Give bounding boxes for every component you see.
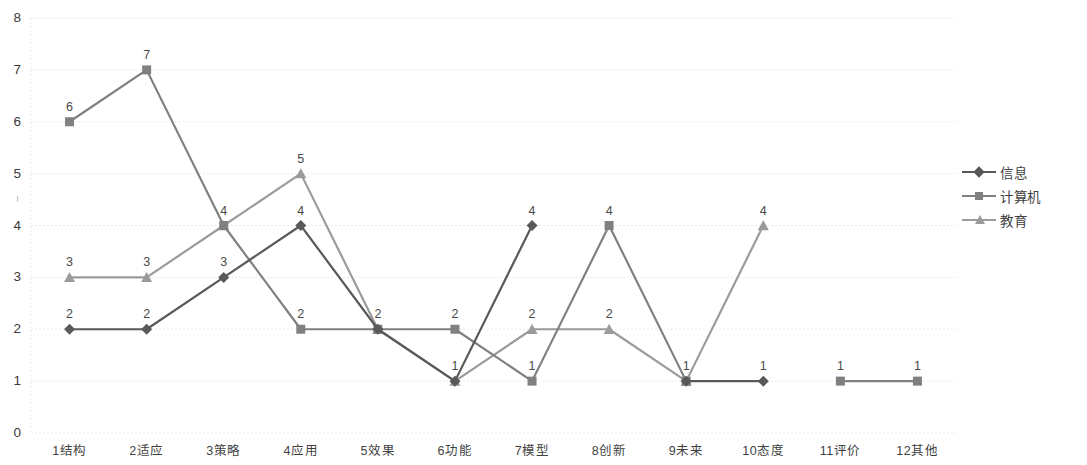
legend-key-diamond-icon bbox=[962, 165, 996, 179]
legend: 信息计算机教育 bbox=[962, 160, 1087, 232]
diamond-marker bbox=[64, 324, 75, 335]
data-label: 3 bbox=[66, 255, 73, 269]
square-marker bbox=[450, 325, 459, 334]
square-marker bbox=[142, 65, 151, 74]
data-label: 2 bbox=[66, 307, 73, 321]
plot-area: 223441672221411334512214 bbox=[31, 18, 956, 433]
x-tick-label-3: 3策略 bbox=[206, 440, 241, 459]
x-tick-label-6: 6功能 bbox=[438, 440, 473, 459]
data-label: 2 bbox=[529, 307, 536, 321]
y-tick-label: 5 bbox=[13, 167, 21, 181]
x-tick-label-8: 8创新 bbox=[592, 440, 627, 459]
x-tick-label-12: 12其他 bbox=[896, 440, 938, 459]
data-label: 1 bbox=[683, 359, 690, 373]
data-label: 5 bbox=[297, 152, 304, 166]
data-label: 4 bbox=[606, 204, 613, 218]
data-label: 3 bbox=[220, 255, 227, 269]
x-tick-label-2: 2适应 bbox=[129, 440, 164, 459]
square-marker bbox=[605, 221, 614, 230]
legend-label: 计算机 bbox=[1000, 186, 1041, 206]
series-line bbox=[70, 226, 532, 382]
data-label: 2 bbox=[374, 307, 381, 321]
data-label: 2 bbox=[606, 307, 613, 321]
legend-key-triangle-icon bbox=[962, 213, 996, 227]
diamond-marker bbox=[758, 376, 769, 387]
data-label: 7 bbox=[143, 48, 150, 62]
data-label: 3 bbox=[143, 255, 150, 269]
triangle-marker-icon bbox=[975, 215, 985, 224]
series-计算机 bbox=[65, 65, 922, 385]
y-tick-label: 0 bbox=[13, 426, 21, 440]
x-tick-label-11: 11评价 bbox=[820, 440, 861, 459]
x-axis: 1结构2适应3策略4应用5效果6功能7模型8创新9未来10态度11评价12其他 bbox=[31, 440, 956, 465]
line-chart: ı 012345678 223441672221411334512214 1结构… bbox=[0, 0, 1087, 465]
square-marker bbox=[219, 221, 228, 230]
data-label: 1 bbox=[451, 359, 458, 373]
data-label: 1 bbox=[914, 359, 921, 373]
data-label: 1 bbox=[837, 359, 844, 373]
x-tick-label-7: 7模型 bbox=[515, 440, 550, 459]
x-tick-label-4: 4应用 bbox=[283, 440, 318, 459]
y-tick-label: 1 bbox=[13, 374, 21, 388]
legend-key-square-icon bbox=[962, 189, 996, 203]
y-tick-label: 7 bbox=[13, 63, 21, 77]
data-label: 4 bbox=[297, 204, 304, 218]
x-tick-label-1: 1结构 bbox=[52, 440, 87, 459]
x-tick-label-9: 9未来 bbox=[669, 440, 704, 459]
legend-item-计算机[interactable]: 计算机 bbox=[962, 184, 1087, 208]
square-marker bbox=[65, 117, 74, 126]
data-label: 2 bbox=[451, 307, 458, 321]
legend-label: 信息 bbox=[1000, 162, 1027, 182]
data-label: 2 bbox=[297, 307, 304, 321]
y-tick-label: 2 bbox=[13, 322, 21, 336]
diamond-marker-icon bbox=[973, 166, 984, 177]
data-label: 6 bbox=[66, 100, 73, 114]
legend-item-教育[interactable]: 教育 bbox=[962, 208, 1087, 232]
data-label: 1 bbox=[760, 359, 767, 373]
data-label: 4 bbox=[760, 204, 767, 218]
x-tick-label-10: 10态度 bbox=[742, 440, 784, 459]
plot-canvas: 223441672221411334512214 bbox=[31, 18, 956, 433]
square-marker bbox=[913, 377, 922, 386]
y-tick-label: 3 bbox=[13, 270, 21, 284]
diamond-marker bbox=[527, 220, 538, 231]
legend-item-信息[interactable]: 信息 bbox=[962, 160, 1087, 184]
y-tick-label: 6 bbox=[13, 115, 21, 129]
square-marker-icon bbox=[975, 192, 983, 200]
y-tick-label: 8 bbox=[13, 11, 21, 25]
x-tick-label-5: 5效果 bbox=[360, 440, 395, 459]
legend-label: 教育 bbox=[1000, 210, 1027, 230]
square-marker bbox=[836, 377, 845, 386]
data-label: 4 bbox=[529, 204, 536, 218]
data-label: 2 bbox=[143, 307, 150, 321]
square-marker bbox=[296, 325, 305, 334]
square-marker bbox=[528, 377, 537, 386]
data-label: 1 bbox=[529, 359, 536, 373]
y-tick-label: 4 bbox=[13, 219, 21, 233]
series-信息 bbox=[64, 220, 769, 387]
data-label: 4 bbox=[220, 204, 227, 218]
y-axis: 012345678 bbox=[0, 0, 28, 465]
